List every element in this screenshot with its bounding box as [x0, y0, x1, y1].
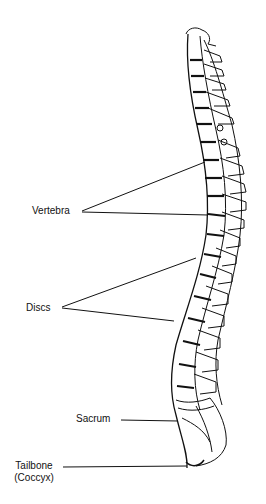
- leader-tailbone: [63, 466, 187, 467]
- spine-anterior-edge: [172, 34, 208, 468]
- leader-vertebra-upper: [82, 162, 205, 211]
- leader-discs-upper: [62, 258, 196, 307]
- leader-sacrum: [121, 420, 178, 421]
- spine-illustration: [0, 0, 266, 504]
- sacrum-outline: [176, 398, 226, 466]
- spinous-process-outline: [204, 40, 242, 405]
- leader-vertebra-lower: [82, 212, 208, 215]
- leader-discs-lower: [62, 308, 174, 321]
